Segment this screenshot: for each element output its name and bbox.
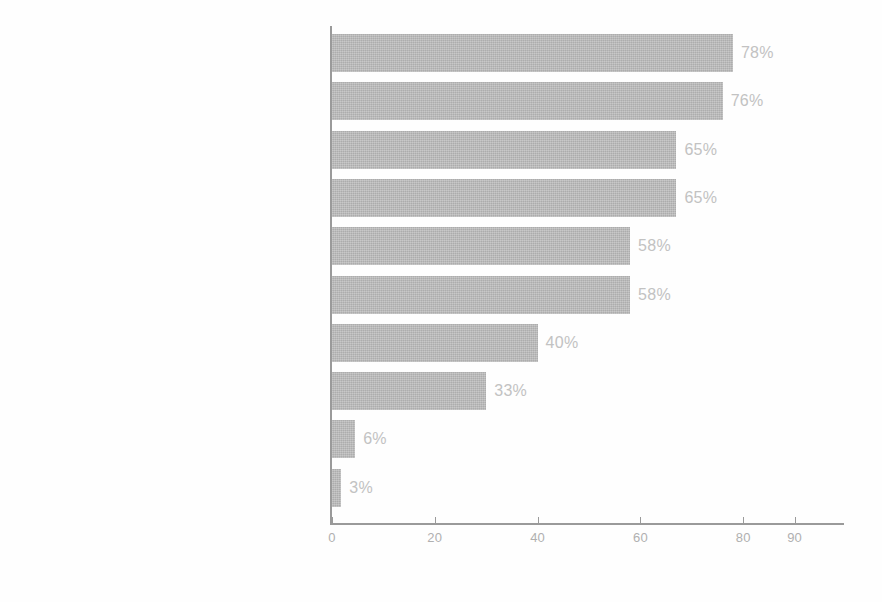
bar (332, 82, 723, 120)
bar (332, 324, 538, 362)
x-axis-line (330, 523, 844, 525)
x-axis-tick-mark (795, 517, 796, 525)
x-axis-tick-label: 90 (787, 530, 802, 545)
bar-value-label: 58% (638, 276, 671, 314)
bar-value-label: 65% (684, 131, 717, 169)
x-axis-tick-label: 0 (328, 530, 335, 545)
x-axis-tick-mark (743, 517, 744, 525)
bar (332, 227, 630, 265)
bar-value-label: 40% (546, 324, 579, 362)
bar (332, 131, 676, 169)
x-axis-tick-label: 60 (633, 530, 648, 545)
bar-value-label: 6% (363, 420, 387, 458)
x-axis-tick-label: 80 (736, 530, 751, 545)
x-axis-tick-mark (538, 517, 539, 525)
x-axis-tick-mark (640, 517, 641, 525)
x-axis-tick-mark (435, 517, 436, 525)
bar (332, 372, 486, 410)
x-axis-tick-mark (332, 517, 333, 525)
bar-value-label: 33% (494, 372, 527, 410)
plot-area: Keyword Research78%Website Analytics76%S… (0, 0, 882, 602)
bar (332, 420, 355, 458)
bar-value-label: 65% (684, 179, 717, 217)
bar (332, 469, 341, 507)
bar (332, 34, 733, 72)
x-axis-tick-label: 40 (530, 530, 545, 545)
bar (332, 276, 630, 314)
bar-value-label: 78% (741, 34, 774, 72)
bar-value-label: 58% (638, 227, 671, 265)
x-axis-tick-label: 20 (427, 530, 442, 545)
bar-value-label: 76% (731, 82, 764, 120)
bar-value-label: 3% (349, 469, 373, 507)
bar-chart: Keyword Research78%Website Analytics76%S… (0, 0, 882, 602)
bar (332, 179, 676, 217)
